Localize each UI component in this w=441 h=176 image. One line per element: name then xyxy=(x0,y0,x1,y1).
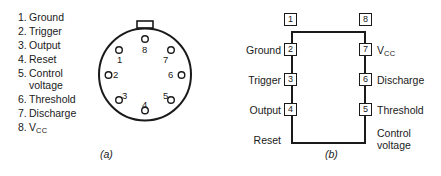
panel-a-to99-package: 8 1 2 3 4 5 6 7 (a) xyxy=(0,0,225,176)
pin-box-3: 3 xyxy=(284,73,297,86)
pin-box-2: 2 xyxy=(284,43,297,56)
pin-label-discharge: Discharge xyxy=(377,74,424,86)
pin-box-5: 5 xyxy=(359,103,372,116)
pin-label-ground: Ground xyxy=(217,44,281,56)
pin-hole-6 xyxy=(178,72,185,79)
to99-outline-svg xyxy=(90,14,200,132)
pin-number-5: 5 xyxy=(163,91,168,101)
figure-root: 1.Ground 2.Trigger 3.Output 4.Reset 5.Co… xyxy=(0,0,441,176)
pin-box-8: 8 xyxy=(359,13,372,26)
pin-hole-5 xyxy=(168,97,175,104)
pin-label-output: Output xyxy=(217,104,281,116)
pin-number-1: 1 xyxy=(117,55,122,65)
pin-label-vcc-text: V xyxy=(377,44,384,56)
pin-hole-8 xyxy=(142,36,149,43)
panel-b-dip-package: 1 Ground 2 Trigger 3 Output 4 Reset 8 VC… xyxy=(225,0,441,176)
figure-caption-b: (b) xyxy=(325,148,338,160)
pin-hole-1 xyxy=(116,47,123,54)
vcc-subscript: CC xyxy=(384,49,395,58)
pin-hole-2 xyxy=(105,72,112,79)
figure-caption-a: (a) xyxy=(100,148,113,160)
pin-box-4: 4 xyxy=(284,103,297,116)
dip-body-outline xyxy=(291,31,366,144)
pin-hole-7 xyxy=(168,47,175,54)
pin-label-threshold: Threshold xyxy=(377,104,424,116)
pin-number-4: 4 xyxy=(142,100,147,110)
pin-number-3: 3 xyxy=(122,91,127,101)
pin-number-7: 7 xyxy=(163,55,168,65)
pin-box-7: 7 xyxy=(359,43,372,56)
pin-label-reset: Reset xyxy=(217,134,281,146)
pin-label-trigger: Trigger xyxy=(217,74,281,86)
package-tab xyxy=(137,21,153,28)
pin-number-8: 8 xyxy=(142,45,147,55)
pin-label-vcc: VCC xyxy=(377,44,395,58)
pin-label-control-voltage: Control xyxy=(377,127,411,139)
pin-box-6: 6 xyxy=(359,73,372,86)
pin-number-2: 2 xyxy=(113,70,118,80)
pin-number-6: 6 xyxy=(168,70,173,80)
pin-box-1: 1 xyxy=(284,13,297,26)
pin-label-control-voltage-cont: voltage xyxy=(377,139,411,151)
